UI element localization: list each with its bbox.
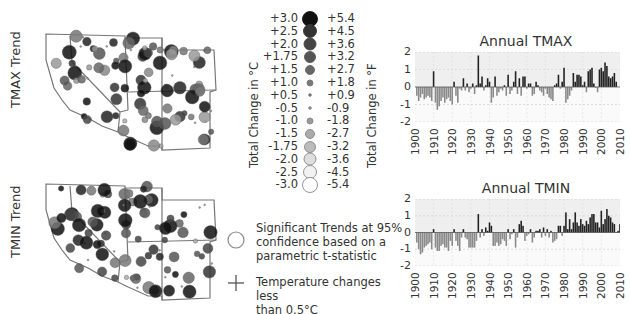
x-tick-label: 1910 (428, 128, 440, 155)
legend-celsius-value: +2.5 (256, 25, 298, 38)
legend-circle-icon (301, 176, 319, 194)
tmax-chart-title: Annual TMAX (415, 33, 630, 49)
x-tick-label: 2000 (595, 272, 607, 299)
tmin-station-markers (49, 181, 217, 298)
y-tick-label: -1 (395, 242, 411, 255)
x-tick-label: 1970 (539, 272, 551, 299)
legend-fahrenheit-value: -5.4 (327, 178, 369, 191)
significant-circle-icon (226, 230, 246, 250)
x-tick-label: 1940 (484, 128, 496, 155)
y-tick-label: 0 (395, 226, 411, 239)
x-tick-label: 1960 (521, 128, 533, 155)
x-tick-label: 1920 (446, 272, 458, 299)
legend-celsius-value: -2.0 (256, 153, 298, 166)
y-tick-label: 1 (395, 209, 411, 222)
x-tick-label: 1990 (577, 272, 589, 299)
x-tick-label: 1960 (521, 272, 533, 299)
x-tick-label: 2010 (614, 272, 626, 299)
significant-trends-note: Significant Trends at 95% confidence bas… (256, 221, 406, 263)
x-tick-label: 1970 (539, 128, 551, 155)
y-tick-label: -1 (395, 98, 411, 111)
x-tick-label: 1930 (465, 272, 477, 299)
y-tick-label: 2 (395, 45, 411, 58)
y-tick-label: -2 (395, 115, 411, 128)
legend-celsius-value: -3.0 (256, 178, 298, 191)
tmin-map (40, 178, 225, 303)
x-tick-label: 1910 (428, 272, 440, 299)
tmax-station-markers (51, 30, 214, 151)
x-tick-label: 1940 (484, 272, 496, 299)
y-tick-label: 2 (395, 192, 411, 205)
x-tick-label: 2010 (614, 128, 626, 155)
x-tick-label: 1980 (558, 272, 570, 299)
legend-celsius-value: +0.5 (256, 89, 298, 102)
tmin-map-label: TMIN Trend (8, 186, 23, 258)
tmin-bar-chart (415, 199, 620, 266)
tmax-bar-chart (415, 52, 620, 122)
small-change-note: Temperature changes less than 0.5°C (256, 275, 406, 314)
y-tick-label: 1 (395, 63, 411, 76)
legend-fahrenheit-value: +0.9 (327, 89, 369, 102)
legend-fahrenheit-value: -3.6 (327, 153, 369, 166)
y-tick-label: -2 (395, 259, 411, 272)
y-tick-label: 0 (395, 80, 411, 93)
tmax-map-label: TMAX Trend (8, 31, 23, 108)
legend-fahrenheit-value: +4.5 (327, 25, 369, 38)
x-tick-label: 1990 (577, 128, 589, 155)
tmin-chart-title: Annual TMIN (415, 180, 630, 196)
x-tick-label: 1930 (465, 128, 477, 155)
plus-marker-icon (226, 273, 246, 293)
x-tick-label: 1950 (502, 272, 514, 299)
x-tick-label: 1920 (446, 128, 458, 155)
x-tick-label: 1950 (502, 128, 514, 155)
x-tick-label: 1980 (558, 128, 570, 155)
x-tick-label: 1900 (409, 128, 421, 155)
x-tick-label: 1900 (409, 272, 421, 299)
tmax-map (40, 28, 225, 153)
x-tick-label: 2000 (595, 128, 607, 155)
